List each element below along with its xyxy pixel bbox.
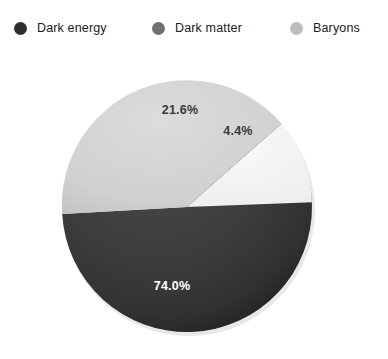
legend-item-dark-energy[interactable]: Dark energy xyxy=(14,22,107,35)
legend-label-dark-energy: Dark energy xyxy=(37,22,107,35)
legend-swatch-dark-matter-icon xyxy=(152,22,165,35)
pie-chart: 21.6% 4.4% 74.0% xyxy=(0,52,388,359)
legend-item-dark-matter[interactable]: Dark matter xyxy=(152,22,242,35)
legend-swatch-baryons-icon xyxy=(290,22,303,35)
chart-legend: Dark energy Dark matter Baryons xyxy=(0,0,388,58)
pie-label-dark-matter: 21.6% xyxy=(162,103,198,117)
pie-chart-svg: 21.6% 4.4% 74.0% xyxy=(0,52,388,359)
pie-label-dark-energy: 74.0% xyxy=(154,279,190,293)
pie-label-baryons: 4.4% xyxy=(223,124,252,138)
legend-swatch-dark-energy-icon xyxy=(14,22,27,35)
legend-item-baryons[interactable]: Baryons xyxy=(290,22,360,35)
legend-label-dark-matter: Dark matter xyxy=(175,22,242,35)
legend-label-baryons: Baryons xyxy=(313,22,360,35)
pie-rim xyxy=(62,82,312,332)
